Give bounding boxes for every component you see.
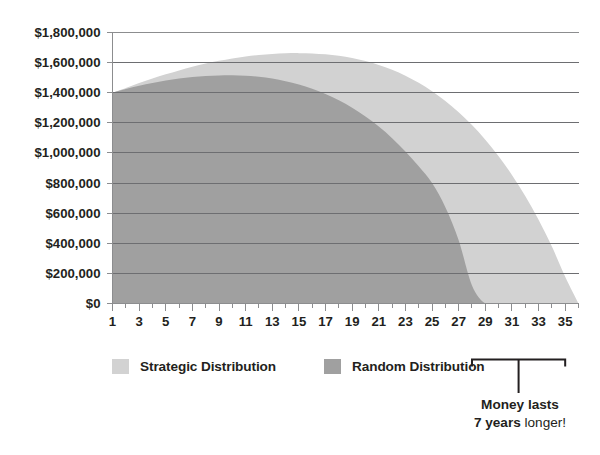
- legend-item-strategic: Strategic Distribution: [112, 359, 276, 374]
- y-axis-tick-label: $800,000: [45, 176, 100, 191]
- y-axis-tick-label: $1,400,000: [34, 85, 100, 100]
- x-axis-tick-label: 7: [189, 314, 196, 329]
- x-axis-tick-label: 3: [135, 314, 142, 329]
- x-axis-tick-label: 5: [162, 314, 169, 329]
- y-axis-tick-label: $400,000: [45, 236, 100, 251]
- legend-item-random: Random Distribution: [324, 359, 485, 374]
- chart-plot-area: $1,800,000$1,600,000$1,400,000$1,200,000…: [0, 0, 600, 455]
- annotation-line-1: Money lasts: [440, 396, 600, 414]
- annotation-line-2: 7 years longer!: [440, 414, 600, 432]
- x-axis-ticks: 1357911131517192123252729313335: [109, 304, 579, 329]
- x-axis-tick-label: 35: [558, 314, 573, 329]
- x-axis-tick-label: 27: [451, 314, 466, 329]
- x-axis-tick-label: 9: [215, 314, 222, 329]
- legend-swatch-random: [324, 359, 341, 374]
- x-axis-tick-label: 31: [505, 314, 520, 329]
- x-axis-tick-label: 17: [318, 314, 333, 329]
- y-axis-ticks: $1,800,000$1,600,000$1,400,000$1,200,000…: [34, 25, 112, 311]
- x-axis-tick-label: 15: [292, 314, 307, 329]
- x-axis-tick-label: 25: [425, 314, 440, 329]
- annotation-emphasis: 7 years: [474, 415, 521, 430]
- y-axis-tick-label: $1,800,000: [34, 25, 100, 40]
- x-axis-tick-label: 23: [398, 314, 413, 329]
- y-axis-tick-label: $1,600,000: [34, 55, 100, 70]
- x-axis-tick-label: 19: [345, 314, 360, 329]
- money-lasts-annotation: Money lasts 7 years longer!: [440, 396, 600, 432]
- x-axis-tick-label: 29: [478, 314, 493, 329]
- y-axis-tick-label: $1,200,000: [34, 115, 100, 130]
- x-axis-tick-label: 13: [265, 314, 280, 329]
- y-axis-tick-label: $1,000,000: [34, 145, 100, 160]
- retirement-distribution-chart: $1,800,000$1,600,000$1,400,000$1,200,000…: [0, 0, 600, 455]
- x-axis-tick-label: 11: [239, 314, 253, 329]
- area-series-group: [113, 53, 579, 305]
- legend-label-strategic: Strategic Distribution: [140, 359, 276, 374]
- y-axis-tick-label: $200,000: [45, 266, 100, 281]
- x-axis-tick-label: 1: [109, 314, 116, 329]
- legend-label-random: Random Distribution: [352, 359, 485, 374]
- x-axis-tick-label: 21: [371, 314, 386, 329]
- y-axis-tick-label: $600,000: [45, 206, 100, 221]
- annotation-bracket: [472, 360, 565, 394]
- x-axis-tick-label: 33: [531, 314, 546, 329]
- y-axis-tick-label: $0: [86, 296, 101, 311]
- annotation-suffix: longer!: [521, 415, 566, 430]
- chart-legend: Strategic Distribution Random Distributi…: [112, 356, 485, 376]
- legend-swatch-strategic: [112, 359, 129, 374]
